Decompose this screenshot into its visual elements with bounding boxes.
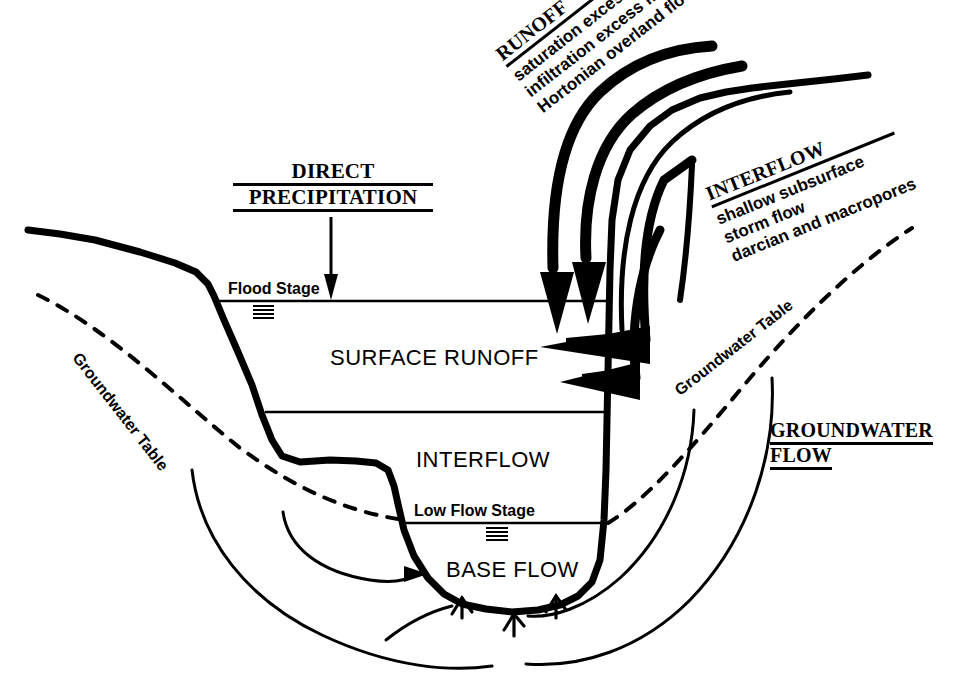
groundwater-flow-right-1 bbox=[528, 410, 694, 616]
groundwater-flow-line1: GROUNDWATER bbox=[770, 420, 933, 445]
groundwater-flow-left-2 bbox=[283, 512, 416, 582]
low-flow-stage-marker bbox=[486, 528, 508, 540]
runoff-arrowhead-2 bbox=[572, 262, 606, 324]
direct-precipitation-line1: DIRECT bbox=[233, 160, 433, 186]
base-flow-label: BASE FLOW bbox=[446, 558, 579, 581]
direct-precipitation-heading: DIRECT PRECIPITATION bbox=[233, 160, 433, 212]
direct-precipitation-arrow bbox=[324, 217, 338, 300]
groundwater-table-left bbox=[38, 295, 404, 520]
groundwater-flow-heading: GROUNDWATER FLOW bbox=[770, 420, 933, 470]
direct-precipitation-line2: PRECIPITATION bbox=[233, 186, 433, 212]
groundwater-flow-right-2 bbox=[526, 378, 772, 665]
hydrology-diagram: DIRECT PRECIPITATION RUNOFF saturation e… bbox=[0, 0, 970, 682]
interflow-stub-1 bbox=[680, 165, 692, 300]
interflow-zone-label: INTERFLOW bbox=[416, 448, 550, 471]
flood-stage-label: Flood Stage bbox=[228, 281, 320, 298]
groundwater-flow-left-3 bbox=[386, 606, 452, 640]
flood-stage-marker bbox=[253, 306, 274, 318]
low-flow-stage-label: Low Flow Stage bbox=[414, 503, 535, 520]
groundwater-flow-line2: FLOW bbox=[770, 445, 832, 470]
surface-runoff-label: SURFACE RUNOFF bbox=[330, 346, 539, 369]
runoff-arrowhead-1 bbox=[540, 272, 574, 334]
